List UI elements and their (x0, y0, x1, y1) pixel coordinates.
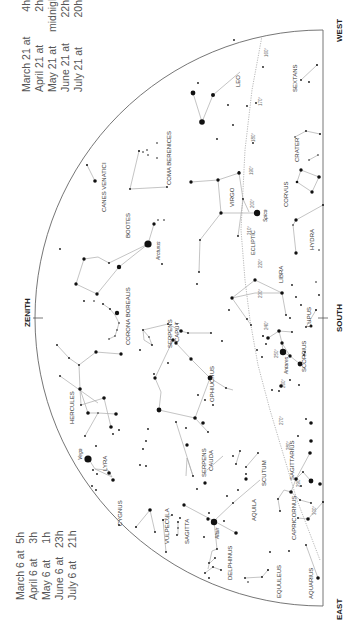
label-vega: Vega (77, 448, 83, 460)
svg-text:170°: 170° (258, 96, 263, 106)
zenith-label: ZENITH (23, 298, 32, 327)
time-row: May 6 at1h (40, 532, 53, 600)
label-antares: Antares (283, 356, 289, 375)
time-row: June 6 at23h (53, 532, 66, 600)
label-arcturus: Arcturus (155, 241, 161, 261)
star-antares (280, 349, 286, 355)
time-row: April 21 at2h (33, 0, 46, 92)
label-hercules: HERCULES (69, 391, 75, 424)
time-row: April 6 at3h (27, 532, 40, 600)
svg-text:240°: 240° (264, 320, 269, 330)
label-lupus: LUPUS (306, 307, 312, 327)
label-coma-berenices: COMA BERENICES (166, 131, 172, 185)
label-delphinus: DELPHINUS (227, 546, 233, 580)
label-aquila: AQUILA (251, 499, 257, 521)
svg-text:200°: 200° (250, 198, 255, 208)
time-row: July 6 at21h (66, 532, 79, 600)
star-altair (211, 519, 217, 525)
label-serpens-caput-1: SERPENS (167, 319, 173, 348)
time-row: May 21 atmidnight (46, 0, 59, 92)
label-serpens-caput-2: CAPUT (174, 321, 180, 342)
east-label: EAST (335, 599, 344, 620)
stars (56, 39, 324, 583)
svg-text:190°: 190° (249, 165, 254, 175)
label-equuleus: EQUULEUS (276, 565, 282, 598)
star-arcturus (144, 240, 151, 247)
label-leo: LEO (235, 75, 241, 87)
time-row: March 6 at5h (14, 532, 27, 600)
svg-text:180°: 180° (251, 132, 256, 142)
time-row: July 21 at20h (72, 0, 85, 92)
label-scutum: SCUTUM (261, 460, 267, 486)
svg-text:270°: 270° (279, 415, 284, 425)
constellation-lines (57, 65, 323, 578)
ecliptic-line (241, 36, 320, 560)
label-ophiuchus: OPHIUCHUS (209, 366, 215, 402)
label-corona-borealis: CORONA BOREALIS (125, 287, 131, 345)
label-sextans: SEXTANS (292, 64, 298, 92)
label-altair: Altair (214, 527, 220, 540)
label-lyra: LYRA (102, 456, 108, 471)
label-cygnus: CYGNUS (117, 500, 123, 526)
star-vega (84, 455, 91, 462)
svg-text:210°: 210° (247, 225, 252, 235)
time-row: March 21 at4h (20, 0, 33, 92)
label-hydra: HYDRA (309, 229, 315, 250)
label-aquarius: AQUARIUS (308, 568, 314, 599)
label-scorpius: SCORPIUS (301, 341, 307, 372)
label-sagittarius: SAGITTARIUS (289, 440, 295, 480)
label-crater: CRATER (294, 137, 300, 162)
south-label: SOUTH (335, 304, 344, 332)
label-bootes: BOOTES (125, 213, 131, 238)
label-vulpecula: VULPECULA (164, 508, 170, 544)
label-spica: Spica (262, 209, 268, 222)
label-sagitta: SAGITTA (184, 519, 190, 544)
svg-text:160°: 160° (264, 47, 269, 57)
label-serpens-cauda-1: SERPENS (201, 448, 207, 477)
star-spica (254, 210, 260, 216)
label-capricornus: CAPRICORNUS (291, 496, 297, 540)
svg-text:250°: 250° (274, 348, 279, 358)
label-corvus: CORVUS (283, 181, 289, 207)
svg-text:220°: 220° (258, 258, 263, 268)
label-libra: LIBRA (278, 266, 284, 283)
label-serpens-cauda-2: CAUDA (208, 450, 214, 471)
west-label: WEST (335, 19, 344, 42)
time-row: June 21 at22h (59, 0, 72, 92)
sky-arc (35, 30, 323, 606)
label-virgo: VIRGO (229, 187, 235, 207)
label-canes-venatici: CANES VENATICI (101, 162, 107, 212)
